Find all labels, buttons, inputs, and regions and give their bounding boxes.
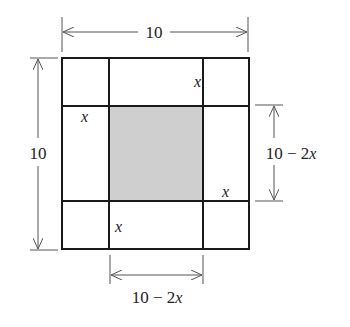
x-label-top: x	[193, 73, 201, 90]
left-height-label: 10	[30, 144, 47, 163]
right-dim-label: 10 − 2x	[266, 144, 317, 163]
bottom-dimension	[110, 255, 203, 284]
bottom-dim-label: 10 − 2x	[132, 288, 183, 307]
x-label-bottom: x	[114, 218, 122, 235]
box-net-diagram: 10 10 10 − 2x 10 − 2x x x x x	[0, 0, 350, 327]
center-shaded-square	[109, 106, 203, 201]
top-width-label: 10	[146, 23, 163, 42]
x-label-right: x	[221, 183, 229, 200]
x-label-left: x	[80, 108, 88, 125]
